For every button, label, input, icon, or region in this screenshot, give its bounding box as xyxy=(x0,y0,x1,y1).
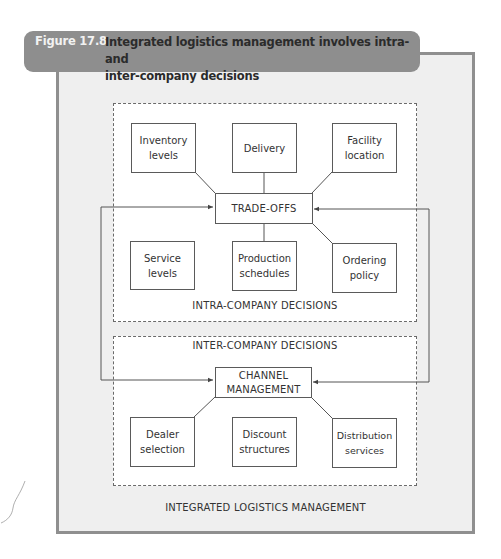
channel-management-box: CHANNELMANAGEMENT xyxy=(215,367,312,398)
service-levels-box: Servicelevels xyxy=(130,241,195,290)
intra-company-label: INTRA-COMPANY DECISIONS xyxy=(113,300,417,311)
box-label: Delivery xyxy=(244,141,286,156)
integrated-logistics-label: INTEGRATED LOGISTICS MANAGEMENT xyxy=(56,502,475,513)
inter-company-label: INTER-COMPANY DECISIONS xyxy=(113,340,417,351)
facility-location-box: Facilitylocation xyxy=(332,123,397,173)
box-label: Ordering xyxy=(343,253,387,268)
box-label: structures xyxy=(239,442,290,457)
box-label: selection xyxy=(140,442,185,457)
box-label: Service xyxy=(144,251,181,266)
discount-structures-box: Discountstructures xyxy=(232,417,297,467)
hub-label: CHANNEL xyxy=(226,369,300,383)
delivery-box: Delivery xyxy=(232,123,297,173)
production-schedules-box: Productionschedules xyxy=(232,241,297,291)
box-label: Production xyxy=(238,251,291,266)
dealer-selection-box: Dealerselection xyxy=(130,417,195,467)
box-label: Dealer xyxy=(140,427,185,442)
inventory-levels-box: Inventorylevels xyxy=(131,123,196,173)
distribution-services-box: Distributionservices xyxy=(332,418,397,468)
ordering-policy-box: Orderingpolicy xyxy=(332,243,397,293)
box-label: Inventory xyxy=(140,133,188,148)
box-label: schedules xyxy=(238,266,291,281)
box-label: location xyxy=(345,148,385,163)
box-label: levels xyxy=(144,266,181,281)
box-label: Distribution xyxy=(337,428,392,443)
box-label: Facility xyxy=(345,133,385,148)
box-label: policy xyxy=(343,268,387,283)
hub-label: MANAGEMENT xyxy=(226,383,300,397)
box-label: Discount xyxy=(239,427,290,442)
trade-offs-box: TRADE-OFFS xyxy=(215,193,313,224)
box-label: services xyxy=(337,443,392,458)
hub-label: TRADE-OFFS xyxy=(232,201,297,216)
box-label: levels xyxy=(140,148,188,163)
